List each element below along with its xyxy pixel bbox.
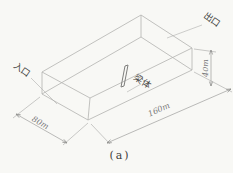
outlet-leader-line <box>167 25 202 38</box>
dimension-line <box>107 89 231 143</box>
box-vertical-edges <box>42 15 192 120</box>
figure-caption: (a) <box>109 149 130 162</box>
box-edge <box>42 15 141 72</box>
box-edge <box>90 48 192 98</box>
extension-line <box>63 123 88 145</box>
height-dimension-text: 40m <box>201 59 210 78</box>
tunnel-diagram: 80m 160m 40m 入口 出口 梁体 (a) <box>0 0 233 173</box>
box-edge <box>88 98 90 120</box>
box-edge <box>42 94 88 120</box>
height-dimension: 40m <box>194 49 216 86</box>
inlet-leader-line <box>31 78 57 104</box>
width-dimension: 80m <box>13 97 88 145</box>
extension-line <box>91 124 110 144</box>
box-top-face <box>42 15 192 98</box>
extension-line <box>194 49 216 52</box>
box-edge <box>141 37 192 70</box>
width-dimension-text: 80m <box>30 115 50 132</box>
outlet-label: 出口 <box>202 10 223 29</box>
inlet-label: 入口 <box>12 60 32 79</box>
beam-model <box>121 65 128 87</box>
box-edge <box>42 72 90 98</box>
length-dimension-text: 160m <box>147 101 172 119</box>
figure-canvas: 80m 160m 40m 入口 出口 梁体 (a) <box>0 0 233 173</box>
